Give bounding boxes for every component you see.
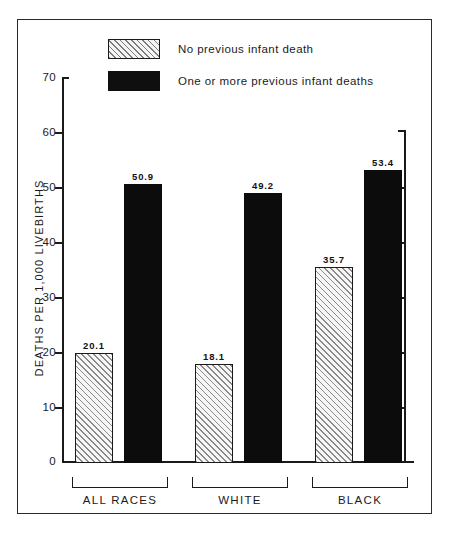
category-bracket xyxy=(312,477,408,488)
category-bracket xyxy=(72,477,168,488)
bar-all-races-one-or-more-deaths: 50.9 xyxy=(124,184,162,463)
bar-all-races-no-previous-death: 20.1 xyxy=(75,353,113,463)
bar-value-label: 53.4 xyxy=(372,157,394,168)
bar-value-label: 50.9 xyxy=(132,171,154,182)
bar-black-one-or-more-deaths: 53.4 xyxy=(364,170,402,463)
bar-series-container: 20.1 50.9 18.1 49.2 35.7 53.4 xyxy=(0,0,451,463)
bar-value-label: 18.1 xyxy=(203,351,225,362)
category-label-all-races: ALL RACES xyxy=(60,494,180,506)
category-label-white: WHITE xyxy=(180,494,300,506)
category-bracket xyxy=(192,477,288,488)
bar-white-no-previous-death: 18.1 xyxy=(195,364,233,463)
bar-value-label: 35.7 xyxy=(323,254,345,265)
bar-chart: DEATHS PER 1,000 LIVEBIRTHS 70 60 50 40 … xyxy=(0,0,451,535)
bar-value-label: 49.2 xyxy=(252,180,274,191)
bar-white-one-or-more-deaths: 49.2 xyxy=(244,193,282,463)
bar-value-label: 20.1 xyxy=(83,340,105,351)
bar-black-no-previous-death: 35.7 xyxy=(315,267,353,463)
category-label-black: BLACK xyxy=(300,494,420,506)
